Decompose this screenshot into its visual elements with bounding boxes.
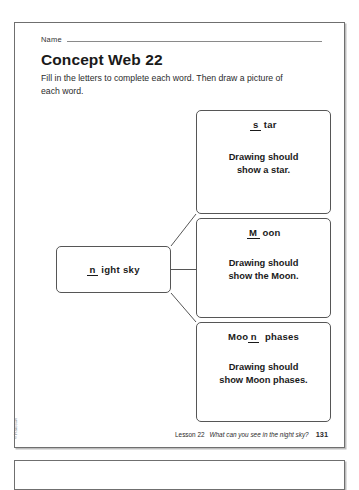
blank-letter-0[interactable]: s bbox=[250, 119, 260, 131]
page-title: Concept Web 22 bbox=[41, 51, 163, 69]
branch-body-line2-1: show the Moon. bbox=[197, 270, 330, 283]
worksheet-page: Name Concept Web 22 Fill in the letters … bbox=[14, 22, 345, 448]
footer-question: What can you see in the night sky? bbox=[210, 431, 309, 438]
branch-title-0: s tar bbox=[197, 119, 330, 130]
branch-body-2: Drawing should show Moon phases. bbox=[197, 361, 330, 388]
page-footer: Lesson 22 What can you see in the night … bbox=[175, 430, 328, 439]
concept-web: n ight sky s tar Drawing should show a s… bbox=[15, 107, 346, 407]
center-word-rest: ight sky bbox=[101, 264, 140, 275]
branch-body-line1-0: Drawing should bbox=[197, 151, 330, 164]
branch-title-2: Moon phases bbox=[197, 331, 330, 342]
name-label: Name bbox=[41, 35, 62, 44]
web-branch-node-2[interactable]: Moon phases Drawing should show Moon pha… bbox=[196, 322, 331, 422]
name-write-line[interactable] bbox=[67, 41, 322, 42]
instructions-text: Fill in the letters to complete each wor… bbox=[41, 72, 299, 97]
web-center-node[interactable]: n ight sky bbox=[56, 246, 171, 293]
branch-word-after-2: phases bbox=[265, 331, 299, 342]
branch-word-after-1: oon bbox=[262, 227, 280, 238]
blank-letter-2[interactable]: n bbox=[248, 331, 259, 343]
branch-body-line2-0: show a star. bbox=[197, 164, 330, 177]
branch-word-before-2: Moo bbox=[228, 331, 248, 342]
footer-lesson-label: Lesson 22 bbox=[175, 431, 205, 438]
branch-body-line1-1: Drawing should bbox=[197, 257, 330, 270]
web-center-label: n ight sky bbox=[87, 264, 140, 275]
blank-letter-1[interactable]: M bbox=[247, 227, 260, 239]
branch-body-1: Drawing should show the Moon. bbox=[197, 257, 330, 284]
web-branch-node-0[interactable]: s tar Drawing should show a star. bbox=[196, 110, 331, 214]
name-row: Name bbox=[41, 35, 322, 44]
branch-title-1: M oon bbox=[197, 227, 330, 238]
web-branch-node-1[interactable]: M oon Drawing should show the Moon. bbox=[196, 218, 331, 318]
copyright-notice: © Harcourt bbox=[13, 418, 18, 439]
branch-word-after-0: tar bbox=[264, 119, 277, 130]
blank-letter-center[interactable]: n bbox=[87, 264, 98, 276]
branch-body-line2-2: show Moon phases. bbox=[197, 374, 330, 387]
next-page-sheet bbox=[14, 460, 345, 490]
branch-body-0: Drawing should show a star. bbox=[197, 151, 330, 178]
branch-body-line1-2: Drawing should bbox=[197, 361, 330, 374]
footer-page-number: 131 bbox=[316, 430, 328, 439]
